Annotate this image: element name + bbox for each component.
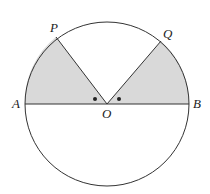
label-b: B — [193, 96, 201, 111]
label-p: P — [49, 20, 58, 35]
label-q: Q — [163, 26, 173, 41]
label-o: O — [102, 106, 112, 121]
label-a: A — [11, 96, 20, 111]
shaded-sector-aop — [25, 37, 107, 104]
angle-marker-left — [93, 97, 97, 101]
angle-marker-right — [117, 97, 121, 101]
shaded-sector-qob — [107, 41, 189, 104]
circle-diagram: P Q A B O — [0, 0, 210, 194]
